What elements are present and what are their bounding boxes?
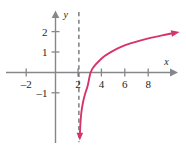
x-axis-label: x [163,56,169,67]
x-tick-label-4: 4 [99,78,105,90]
y-axis-label: y [63,9,69,20]
x-tick-label-6: 6 [122,78,128,90]
curve-right-arrow-icon [171,30,180,36]
y-tick-label-2: 2 [42,26,48,38]
figure-container: –2 2 4 6 8 2 1 –1 y x [0,0,186,151]
x-tick-label--2: –2 [20,78,32,90]
x-tick-label-8: 8 [145,78,151,90]
y-axis-arrow-icon [52,11,60,19]
x-axis-arrow-icon [170,69,178,77]
x-tick-label-2: 2 [75,78,81,90]
y-tick-label-1: 1 [42,46,48,58]
curve-down-arrow-icon [77,133,84,141]
y-tick-label--1: –1 [36,87,48,99]
log-function-plot: –2 2 4 6 8 2 1 –1 y x [0,0,186,151]
